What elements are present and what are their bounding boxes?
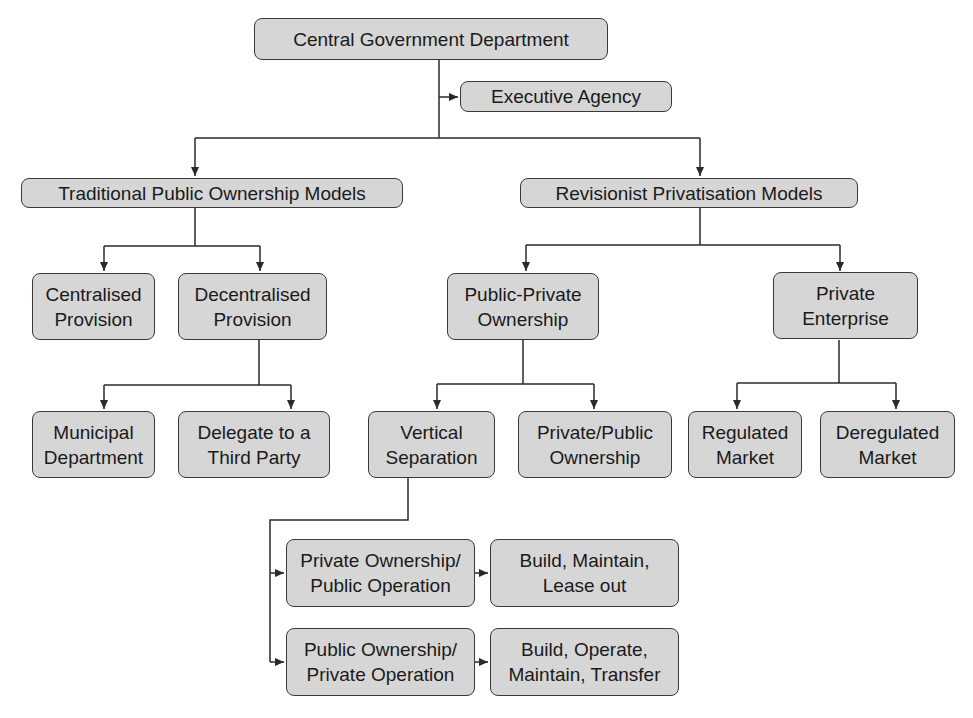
node-decentralised-provision: Decentralised Provision [178, 273, 327, 340]
privatisation-models-diagram: Central Government Department Executive … [0, 0, 973, 718]
node-municipal-department: Municipal Department [32, 411, 155, 478]
node-central-government-department: Central Government Department [254, 18, 608, 60]
node-private-public-ownership: Private/Public Ownership [518, 411, 672, 478]
node-vertical-separation: Vertical Separation [368, 411, 495, 478]
node-revisionist-privatisation-models: Revisionist Privatisation Models [520, 178, 858, 208]
node-centralised-provision: Centralised Provision [32, 273, 155, 340]
node-regulated-market: Regulated Market [688, 411, 802, 478]
node-build-maintain-lease-out: Build, Maintain, Lease out [490, 539, 679, 607]
node-private-enterprise: Private Enterprise [773, 272, 918, 339]
node-delegate-to-third-party: Delegate to a Third Party [178, 411, 330, 478]
node-public-private-ownership: Public-Private Ownership [447, 273, 599, 340]
node-deregulated-market: Deregulated Market [820, 411, 955, 478]
node-private-ownership-public-operation: Private Ownership/ Public Operation [286, 539, 475, 607]
node-executive-agency: Executive Agency [460, 81, 672, 112]
node-build-operate-maintain-transfer: Build, Operate, Maintain, Transfer [490, 628, 679, 696]
node-public-ownership-private-operation: Public Ownership/ Private Operation [286, 628, 475, 696]
node-traditional-public-ownership-models: Traditional Public Ownership Models [21, 178, 403, 208]
